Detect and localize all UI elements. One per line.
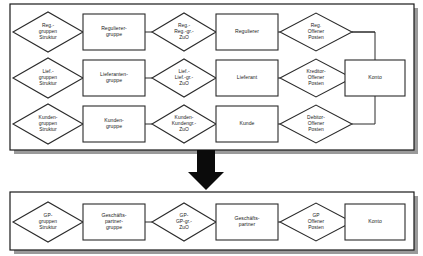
label-lieferanten-gruppe-line-1: gruppe (106, 77, 122, 83)
label-lief-lief-gr-zuo-line-0: Lief.- (178, 69, 189, 74)
label-reg-offener-posten-line-2: Posten (308, 35, 324, 40)
label-reg-reg-gr-zuo-line-1: Reg.-gr.- (174, 29, 194, 34)
label-kunden-gruppen-struktur-line-1: gruppen (39, 121, 58, 126)
label-kreditor-offener-posten-line-2: Posten (308, 81, 324, 86)
label-reg-reg-gr-zuo-line-2: ZuO (179, 35, 189, 40)
label-regulierer-gruppe-line-0: Regulierer- (101, 25, 127, 31)
node-regulierer-gruppe[interactable]: Regulierer-gruppe (83, 14, 145, 50)
label-reg-gruppen-struktur-line-0: Reg.- (42, 23, 55, 28)
label-geschaeftspartner-gruppe-line-1: partner- (105, 218, 123, 224)
label-gp-offener-posten-line-2: Posten (308, 225, 324, 230)
node-lieferant[interactable]: Lieferant (216, 60, 278, 96)
label-kreditor-offener-posten-line-0: Kreditor- (306, 69, 326, 74)
label-geschaeftspartner-gruppe-line-0: Geschäfts- (101, 212, 126, 218)
label-lief-gruppen-struktur-line-1: gruppen (39, 75, 58, 80)
down-arrow-shape (188, 150, 224, 190)
label-gp-gruppen-struktur-line-1: gruppen (39, 219, 58, 224)
label-gp-gp-gr-zuo-line-2: ZuO (179, 225, 189, 230)
label-lief-gruppen-struktur-line-0: Lief.- (42, 69, 53, 74)
label-gp-gruppen-struktur-line-2: Struktur (39, 225, 57, 230)
label-lief-gruppen-struktur-line-2: Struktur (39, 81, 57, 86)
label-geschaeftspartner-gruppe-line-2: gruppe (106, 224, 122, 230)
label-lieferant-line-0: Lieferant (237, 74, 258, 80)
label-lief-lief-gr-zuo-line-2: ZuO (179, 81, 189, 86)
label-kunden-kundengr-zuo-line-0: Kunden- (175, 115, 194, 120)
node-kunden-gruppe[interactable]: Kunden-gruppe (83, 106, 145, 142)
label-kunden-gruppe-line-1: gruppe (106, 123, 122, 129)
label-regulierer-gruppe-line-1: gruppe (106, 31, 122, 37)
label-kunden-gruppe-line-0: Kunden- (104, 117, 124, 123)
label-kunden-gruppen-struktur-line-2: Struktur (39, 127, 57, 132)
label-kunden-gruppen-struktur-line-0: Kunden- (39, 115, 58, 120)
node-konto-bottom[interactable]: Konto (345, 204, 405, 240)
label-kunden-kundengr-zuo-line-1: Kundengr.- (172, 121, 197, 126)
label-gp-offener-posten-line-0: GP (312, 213, 319, 218)
label-reg-offener-posten-line-1: Offener (308, 29, 325, 34)
label-reg-gruppen-struktur-line-1: gruppen (39, 29, 58, 34)
node-lieferanten-gruppe[interactable]: Lieferanten-gruppe (83, 60, 145, 96)
label-geschaeftspartner-line-0: Geschäfts- (234, 215, 259, 221)
label-reg-reg-gr-zuo-line-0: Reg.- (178, 23, 191, 28)
node-kunde[interactable]: Kunde (216, 106, 278, 142)
label-kunde-line-0: Kunde (240, 120, 255, 126)
label-gp-gruppen-struktur-line-0: GP- (44, 213, 53, 218)
label-kreditor-offener-posten-line-1: Offener (308, 75, 325, 80)
label-kunden-kundengr-zuo-line-2: ZuO (179, 127, 189, 132)
label-debitor-offener-posten-line-1: Offener (308, 121, 325, 126)
label-debitor-offener-posten-line-2: Posten (308, 127, 324, 132)
label-konto-bottom-line-0: Konto (368, 218, 382, 224)
node-regulierer[interactable]: Regulierer (216, 14, 278, 50)
label-gp-gp-gr-zuo-line-1: GP-gr.- (176, 219, 192, 224)
node-konto-top[interactable]: Konto (345, 60, 405, 96)
label-debitor-offener-posten-line-0: Debitor- (307, 115, 325, 120)
node-geschaeftspartner[interactable]: Geschäfts-partner (216, 204, 278, 240)
label-lieferanten-gruppe-line-0: Lieferanten- (100, 71, 128, 77)
label-regulierer-line-0: Regulierer (235, 28, 259, 34)
label-lief-lief-gr-zuo-line-1: Lief.-gr.- (175, 75, 194, 80)
label-konto-top-line-0: Konto (368, 74, 382, 80)
node-geschaeftspartner-gruppe[interactable]: Geschäfts-partner-gruppe (83, 204, 145, 240)
diagram-canvas: Reg.-gruppenStrukturRegulierer-gruppeReg… (0, 0, 423, 256)
down-arrow (188, 150, 224, 190)
label-geschaeftspartner-line-1: partner (239, 221, 256, 227)
label-gp-gp-gr-zuo-line-0: GP- (180, 213, 189, 218)
label-gp-offener-posten-line-1: Offener (308, 219, 325, 224)
label-reg-gruppen-struktur-line-2: Struktur (39, 35, 57, 40)
label-reg-offener-posten-line-0: Reg. (311, 23, 322, 28)
